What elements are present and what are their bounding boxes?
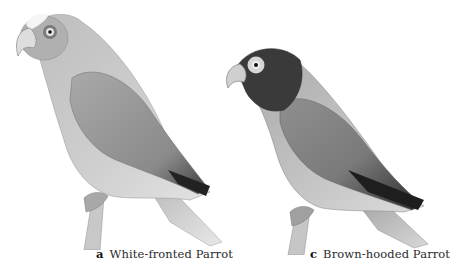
caption-brown-hooded-parrot: cBrown-hooded Parrot [310, 247, 450, 261]
panel-letter-c: c [310, 247, 317, 261]
caption-text-c: Brown-hooded Parrot [323, 247, 450, 261]
caption-white-fronted-parrot: aWhite-fronted Parrot [96, 247, 233, 261]
panel-letter-a: a [96, 247, 104, 261]
white-fronted-parrot-illustration [0, 0, 230, 250]
brown-hooded-parrot-illustration [218, 40, 449, 255]
caption-text-a: White-fronted Parrot [110, 247, 233, 261]
